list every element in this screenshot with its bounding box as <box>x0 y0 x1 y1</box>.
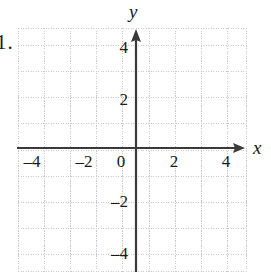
x-tick-label-zero: 0 <box>106 153 136 170</box>
axes <box>0 0 271 279</box>
coordinate-grid-figure: 1. <box>0 0 271 279</box>
x-tick-label-neg4: –4 <box>17 153 47 170</box>
x-tick-label-4: 4 <box>211 153 241 170</box>
y-tick-label-neg2: –2 <box>98 193 128 210</box>
y-axis-label: y <box>129 2 137 21</box>
y-tick-label-4: 4 <box>98 39 128 56</box>
y-tick-label-2: 2 <box>98 91 128 108</box>
x-tick-label-neg2: –2 <box>69 153 99 170</box>
x-axis-label: x <box>253 138 261 157</box>
y-tick-label-neg4: –4 <box>98 245 128 262</box>
x-tick-label-2: 2 <box>159 153 189 170</box>
